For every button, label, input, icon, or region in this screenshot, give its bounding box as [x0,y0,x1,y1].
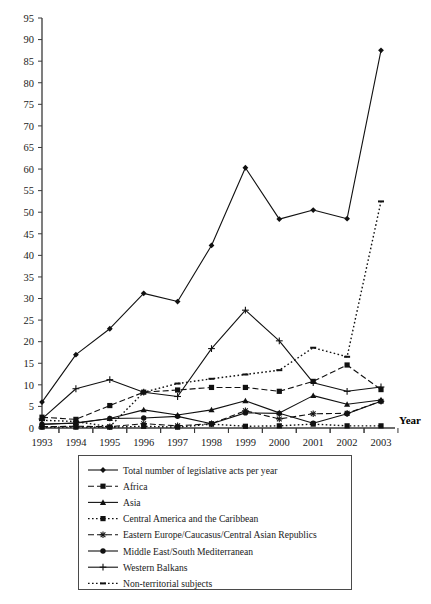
x-tick-label: 1993 [32,437,53,448]
marker-square [378,423,383,428]
marker-asterisk [174,423,181,430]
marker-dash [100,582,106,584]
marker-dash [344,356,350,358]
marker-asterisk [310,410,317,417]
marker-circle [209,421,214,426]
x-tick-label: 2003 [371,437,392,448]
y-tick-label: 80 [24,78,35,89]
x-tick-label: 1994 [65,437,87,448]
x-tick-label: 1998 [201,437,222,448]
x-tick-label: 1995 [99,437,120,448]
y-tick-label: 10 [24,380,35,391]
x-tick-label: 2001 [303,437,324,448]
chart-figure: 05101520253035404550556065707580859095 1… [0,0,431,604]
legend-label: Eastern Europe/Caucasus/Central Asian Re… [123,529,317,540]
marker-dash [209,378,215,380]
marker-circle [311,421,316,426]
legend-label: Non-territorial subjects [123,578,213,589]
marker-square [243,385,248,390]
x-tick-label: 1997 [167,437,188,448]
marker-asterisk [276,416,283,423]
marker-circle [107,416,112,421]
marker-square [345,423,350,428]
y-tick-label: 5 [29,401,34,412]
y-tick-label: 15 [24,358,35,369]
y-tick-label: 55 [24,185,35,196]
line-chart: 05101520253035404550556065707580859095 1… [0,0,431,604]
marker-square [100,484,105,489]
marker-dash [378,200,384,202]
x-tick-label: 2000 [269,437,290,448]
marker-square [100,516,105,521]
y-tick-label: 60 [24,164,35,175]
x-tick-label: 2002 [337,437,358,448]
marker-square [345,362,350,367]
marker-dash [73,421,79,423]
y-tick-label: 65 [24,142,35,153]
marker-dash [39,419,45,421]
x-axis-title: Year [399,414,421,426]
marker-dash [175,383,181,385]
marker-square [277,423,282,428]
x-tick-label: 1999 [235,437,256,448]
marker-circle [243,410,248,415]
legend-label: Western Balkans [123,562,188,573]
marker-circle [277,411,282,416]
marker-dash [141,391,147,393]
marker-dash [310,347,316,349]
marker-square [243,424,248,429]
marker-square [277,389,282,394]
marker-asterisk [100,532,107,539]
marker-dash [242,373,248,375]
y-tick-label: 70 [24,121,35,132]
legend-label: Africa [123,481,148,492]
marker-circle [175,414,180,419]
y-tick-label: 20 [24,336,35,347]
y-tick-label: 25 [24,315,35,326]
legend-label: Middle East/South Mediterranean [123,546,253,557]
marker-circle [100,548,105,553]
y-tick-label: 95 [24,13,35,24]
y-tick-label: 45 [24,229,35,240]
y-tick-label: 75 [24,99,35,110]
y-tick-label: 90 [24,34,35,45]
legend-item[interactable]: Eastern Europe/Caucasus/Central Asian Re… [88,529,317,540]
marker-circle [344,411,349,416]
x-tick-label: 1996 [133,437,154,448]
y-tick-label: 30 [24,293,35,304]
marker-square [107,403,112,408]
marker-square [175,387,180,392]
legend-label: Asia [123,497,141,508]
y-tick-label: 50 [24,207,35,218]
marker-square [209,385,214,390]
marker-dash [276,369,282,371]
y-tick-label: 35 [24,272,35,283]
marker-asterisk [140,420,147,427]
marker-dash [107,426,113,428]
y-tick-label: 85 [24,56,35,67]
y-tick-label: 40 [24,250,35,261]
legend-label: Total number of legislative acts per yea… [123,465,278,476]
legend-label: Central America and the Caribbean [123,513,259,524]
y-tick-label: 0 [29,423,34,434]
marker-circle [141,415,146,420]
marker-circle [378,399,383,404]
